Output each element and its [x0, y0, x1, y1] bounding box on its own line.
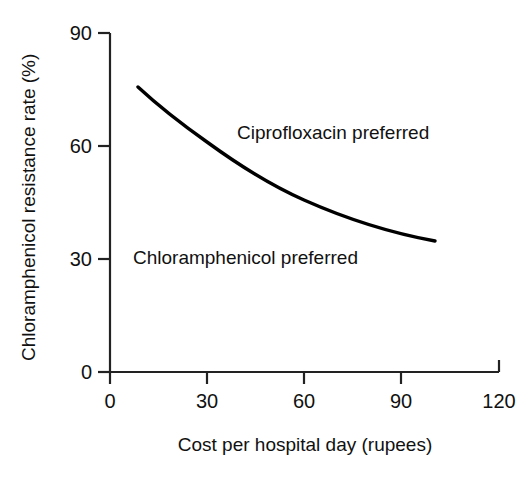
chart-figure: 90 60 30 0 0 30 60 90 120 Ciprofloxacin …: [0, 0, 532, 485]
y-axis-title: Chloramphenicol resistance rate (%): [18, 54, 39, 361]
y-axis-ticks: [98, 33, 110, 372]
annotation-chloramphenicol-preferred: Chloramphenicol preferred: [133, 247, 358, 268]
y-tick-label-60: 60: [56, 136, 92, 156]
x-tick-label-0: 0: [104, 391, 115, 411]
plot-area: [0, 0, 532, 485]
y-tick-label-30: 30: [56, 249, 92, 269]
x-tick-label-30: 30: [196, 391, 218, 411]
threshold-curve: [138, 87, 435, 241]
x-tick-label-90: 90: [390, 391, 412, 411]
y-tick-label-0: 0: [56, 362, 92, 382]
x-tick-label-60: 60: [293, 391, 315, 411]
x-tick-label-120: 120: [482, 391, 515, 411]
annotation-ciprofloxacin-preferred: Ciprofloxacin preferred: [237, 122, 429, 143]
y-tick-label-90: 90: [56, 23, 92, 43]
x-axis-title: Cost per hospital day (rupees): [178, 434, 433, 455]
